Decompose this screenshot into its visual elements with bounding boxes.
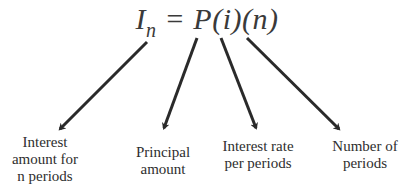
label-number-of-periods: Number of periods [325,138,405,172]
label-line: amount [123,161,203,178]
arrow-interest-rate [221,38,256,128]
arrow-principal [164,38,197,128]
label-interest-rate: Interest rate per periods [213,138,303,172]
label-line: amount for [5,151,85,168]
formula-diagram: In = P(i)(n) Interest amount for n perio… [0,0,414,193]
label-line: Principal [123,144,203,161]
label-principal-amount: Principal amount [123,144,203,178]
label-line: n periods [5,168,85,185]
label-line: Interest rate [213,138,303,155]
arrow-interest-amount [60,42,147,129]
arrow-number-of-periods [247,38,339,129]
label-line: per periods [213,155,303,172]
label-interest-amount: Interest amount for n periods [5,134,85,185]
label-line: Number of [325,138,405,155]
label-line: Interest [5,134,85,151]
label-line: periods [325,155,405,172]
